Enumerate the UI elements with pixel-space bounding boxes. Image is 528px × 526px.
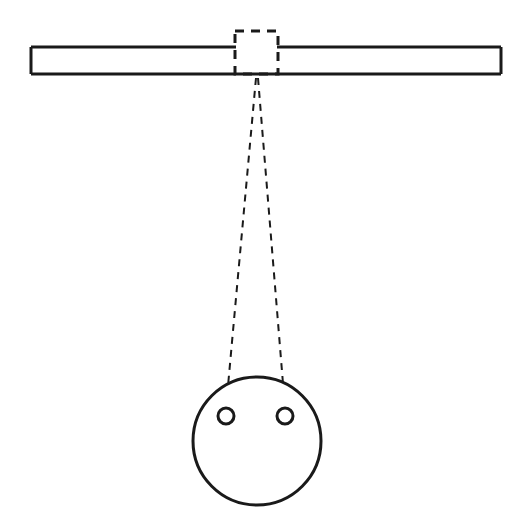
right-projection-line: [258, 78, 285, 408]
face-circle-group: [193, 377, 321, 505]
dashed-inspection-window[interactable]: [235, 31, 278, 74]
dashed-inspection-window-group[interactable]: [235, 31, 278, 74]
line-drawing-canvas: [0, 0, 528, 526]
left-eyelet: [218, 408, 234, 424]
left-projection-line: [226, 78, 256, 408]
right-eyelet: [277, 408, 293, 424]
horizontal-bar-group: [31, 47, 501, 74]
figure-root: [0, 0, 528, 526]
face-circle: [193, 377, 321, 505]
projection-lines-group: [226, 78, 285, 408]
